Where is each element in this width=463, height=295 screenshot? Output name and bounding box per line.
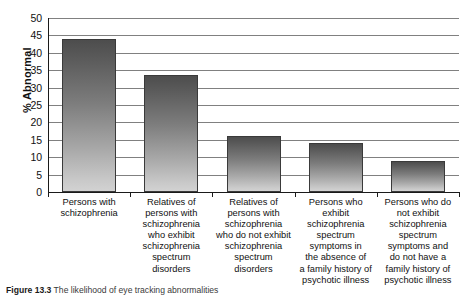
cat-label-line: spectrum (234, 252, 272, 262)
cat-label-line: exhibit (322, 208, 349, 218)
cat-label-line: schizophrenia (225, 241, 282, 251)
category-label-3: Relatives ofpersons withschizophreniawho… (214, 197, 292, 275)
category-label-1: Persons withschizophrenia (50, 197, 128, 219)
x-axis-line (48, 192, 459, 193)
y-tick-label-5: 5 (0, 170, 42, 180)
cat-label-line: schizophrenia (143, 219, 200, 229)
cat-label-line: symptoms in (310, 241, 362, 251)
bar-1 (62, 39, 116, 192)
category-label-2: Relatives ofpersons withschizophreniawho… (132, 197, 210, 275)
cat-label-line: who exhibit (148, 230, 195, 240)
cat-label-line: schizophrenia (143, 241, 200, 251)
bars-layer (48, 18, 459, 192)
cat-label-line: do not have a (390, 252, 446, 262)
cat-label-line: schizophrenia (225, 219, 282, 229)
cat-label-line: Persons who do (385, 197, 452, 207)
y-tick-label-40: 40 (0, 48, 42, 58)
cat-label-line: disorders (234, 264, 272, 274)
x-tick-5 (459, 192, 460, 197)
category-label-4: Persons whoexhibitschizophreniaspectrums… (297, 197, 375, 286)
cat-label-line: Relatives of (147, 197, 196, 207)
y-tick-label-35: 35 (0, 65, 42, 75)
cat-label-line: schizophrenia (307, 219, 364, 229)
y-tick-label-0: 0 (0, 187, 42, 197)
bar-3 (227, 136, 281, 192)
cat-label-line: spectrum (152, 252, 190, 262)
cat-label-line: family history of (386, 264, 451, 274)
cat-label-line: psychotic illness (384, 275, 451, 285)
bar-5 (391, 161, 445, 192)
cat-label-line: symptoms and (388, 241, 448, 251)
cat-label-line: spectrum (317, 230, 355, 240)
figure-number: Figure 13.3 (6, 286, 51, 295)
cat-label-line: Persons with (62, 197, 115, 207)
cat-label-line: persons with (145, 208, 197, 218)
figure-caption-text: The likelihood of eye tracking abnormali… (54, 286, 219, 295)
y-axis-tick-labels: 50454035302520151050 (0, 0, 46, 294)
bar-4 (309, 143, 363, 192)
cat-label-line: disorders (152, 264, 190, 274)
bar-2 (144, 75, 198, 192)
cat-label-line: psychotic illness (302, 275, 369, 285)
figure-caption: Figure 13.3 The likelihood of eye tracki… (6, 286, 458, 295)
y-tick-label-25: 25 (0, 100, 42, 110)
y-tick-label-20: 20 (0, 117, 42, 127)
y-tick-label-15: 15 (0, 135, 42, 145)
cat-label-line: schizophrenia (60, 208, 117, 218)
cat-label-line: schizophrenia (389, 219, 446, 229)
cat-label-line: Persons who (309, 197, 363, 207)
x-axis-category-labels: Persons withschizophreniaRelatives ofper… (48, 197, 459, 273)
cat-label-line: the absence of (305, 252, 366, 262)
cat-label-line: spectrum (399, 230, 437, 240)
y-tick-label-30: 30 (0, 83, 42, 93)
cat-label-line: who do not exhibit (216, 230, 291, 240)
cat-label-line: not exhibit (397, 208, 439, 218)
y-tick-label-10: 10 (0, 152, 42, 162)
cat-label-line: persons with (227, 208, 279, 218)
category-label-5: Persons who donot exhibitschizophreniasp… (379, 197, 457, 286)
cat-label-line: Relatives of (229, 197, 278, 207)
y-tick-label-50: 50 (0, 13, 42, 23)
y-tick-label-45: 45 (0, 30, 42, 40)
cat-label-line: a family history of (300, 264, 372, 274)
